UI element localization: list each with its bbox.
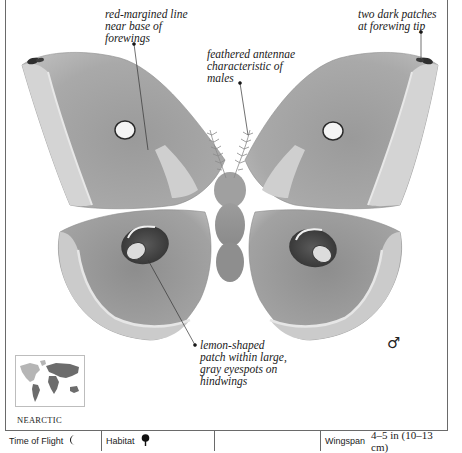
annotation-line: hindwings [200,375,287,387]
annotation-line: gray eyespots on [200,363,287,375]
annotation-line: lemon-shaped [200,339,287,351]
annotation-line: red-margined line [105,8,188,20]
annotation-line: two dark patches [358,8,437,20]
right-hindwing [249,210,402,340]
world-map-icon [16,356,84,406]
annotation-line: characteristic of [207,60,295,72]
moth-body [214,172,246,282]
region-label: NEARCTIC [17,415,62,425]
info-table: Time of Flight Habitat Wingspan 4–5 in (… [5,430,448,451]
time-of-flight-label: Time of Flight [9,436,63,446]
wingspan-value: 4–5 in (10–13 cm) [371,429,448,453]
male-symbol: ♂ [387,334,400,352]
habitat-label: Habitat [106,436,135,446]
time-of-flight-cell: Time of Flight [5,431,102,451]
tree-icon [141,434,150,448]
range-map [15,355,85,407]
wingspan-cell: Wingspan 4–5 in (10–13 cm) [321,431,448,451]
crescent-moon-icon [69,434,77,448]
annotation-line: forewings [105,32,188,44]
wingspan-label: Wingspan [325,436,365,446]
left-hindwing [58,210,211,340]
annotation-forewing-tip: two dark patches at forewing tip [358,8,437,32]
habitat-cell: Habitat [102,431,215,451]
annotation-line: males [207,72,295,84]
annotation-line: near base of [105,20,188,32]
annotation-forewing-line: red-margined line near base of forewings [105,8,188,44]
left-forewing [22,52,225,208]
annotation-line: at forewing tip [358,20,437,32]
empty-cell [215,431,321,451]
annotation-eyespots: lemon-shaped patch within large, gray ey… [200,339,287,387]
annotation-line: patch within large, [200,351,287,363]
annotation-line: feathered antennae [207,48,295,60]
annotation-antennae: feathered antennae characteristic of mal… [207,48,295,84]
